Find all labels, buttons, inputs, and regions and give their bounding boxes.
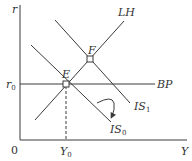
is1-label: IS1 [133, 100, 150, 114]
y-axis-label: r [12, 3, 18, 16]
point-f-label: F [87, 44, 96, 57]
y0-label: Y0 [60, 145, 72, 159]
bp-label: BP [156, 78, 173, 91]
origin-label: 0 [11, 144, 18, 157]
r0-label: r0 [6, 78, 16, 92]
is-lh-bp-diagram: r Y 0 r0 Y0 LH BP IS1 IS0 E F [0, 0, 192, 161]
shift-arrow-icon [97, 99, 114, 116]
lh-line [35, 21, 124, 120]
point-e-marker [63, 81, 69, 87]
x-axis-label: Y [181, 145, 190, 158]
is0-label: IS0 [109, 123, 126, 137]
lh-label: LH [117, 6, 135, 19]
point-e-label: E [61, 68, 70, 81]
